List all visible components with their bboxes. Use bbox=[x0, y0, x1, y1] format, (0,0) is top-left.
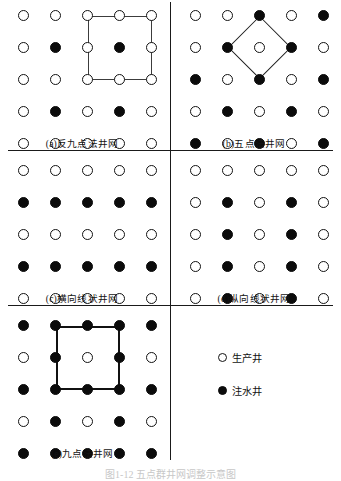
vertical-divider-top bbox=[170, 2, 171, 150]
injector-well-marker bbox=[114, 384, 125, 395]
injector-well-marker bbox=[82, 384, 93, 395]
producer-well-marker bbox=[50, 74, 61, 85]
producer-well-marker bbox=[82, 10, 93, 21]
injector-well-marker bbox=[146, 384, 157, 395]
panel-caption-c: (c)横向线状井网 bbox=[18, 291, 146, 305]
panel-caption-d: (d)纵向线状井网 bbox=[190, 291, 318, 305]
panel-caption-a: (a)反九点法井网 bbox=[18, 136, 146, 150]
producer-well-marker bbox=[146, 229, 157, 240]
producer-well-marker bbox=[318, 197, 329, 208]
panel-caption-b: (b)五点法井网 bbox=[190, 136, 318, 150]
producer-well-marker bbox=[318, 293, 329, 304]
producer-well-marker bbox=[146, 42, 157, 53]
injector-well-marker bbox=[286, 42, 297, 53]
producer-well-marker bbox=[146, 293, 157, 304]
injector-well-icon bbox=[218, 386, 227, 395]
injector-well-marker bbox=[254, 74, 265, 85]
producer-well-marker bbox=[222, 10, 233, 21]
producer-well-marker bbox=[318, 229, 329, 240]
producer-well-marker bbox=[82, 106, 93, 117]
injector-well-marker bbox=[222, 261, 233, 272]
producer-well-marker bbox=[318, 261, 329, 272]
injector-well-marker bbox=[146, 448, 157, 459]
injector-well-marker bbox=[50, 384, 61, 395]
producer-well-marker bbox=[286, 10, 297, 21]
injector-well-marker bbox=[286, 106, 297, 117]
injector-well-marker bbox=[222, 42, 233, 53]
legend-label-injector: 注水井 bbox=[232, 383, 262, 398]
legend-label-producer: 生产井 bbox=[232, 350, 262, 365]
injector-well-marker bbox=[190, 74, 201, 85]
producer-well-marker bbox=[18, 106, 29, 117]
producer-well-marker bbox=[18, 42, 29, 53]
producer-well-marker bbox=[190, 229, 201, 240]
producer-well-marker bbox=[114, 229, 125, 240]
producer-well-marker bbox=[190, 106, 201, 117]
producer-well-marker bbox=[18, 10, 29, 21]
panel-vertical-line-drive bbox=[190, 165, 329, 304]
injector-well-marker bbox=[286, 197, 297, 208]
producer-well-marker bbox=[50, 229, 61, 240]
producer-well-marker bbox=[82, 352, 93, 363]
producer-well-marker bbox=[286, 74, 297, 85]
injector-well-marker bbox=[222, 229, 233, 240]
injector-well-marker bbox=[50, 261, 61, 272]
injector-well-marker bbox=[114, 261, 125, 272]
injector-well-marker bbox=[222, 197, 233, 208]
injector-well-marker bbox=[318, 10, 329, 21]
producer-well-marker bbox=[190, 10, 201, 21]
producer-well-marker bbox=[18, 416, 29, 427]
producer-well-marker bbox=[254, 106, 265, 117]
injector-well-marker bbox=[18, 261, 29, 272]
producer-well-icon bbox=[218, 353, 227, 362]
producer-well-marker bbox=[18, 165, 29, 176]
producer-well-marker bbox=[82, 165, 93, 176]
injector-well-marker bbox=[50, 197, 61, 208]
injector-well-marker bbox=[114, 42, 125, 53]
injector-well-marker bbox=[146, 261, 157, 272]
injector-well-marker bbox=[222, 106, 233, 117]
producer-well-marker bbox=[190, 42, 201, 53]
injector-well-marker bbox=[18, 320, 29, 331]
legend: 生产井 注水井 bbox=[218, 350, 328, 416]
producer-well-marker bbox=[190, 197, 201, 208]
producer-well-marker bbox=[18, 352, 29, 363]
injector-well-marker bbox=[50, 352, 61, 363]
panel-caption-e: (e)九点法井网 bbox=[18, 446, 146, 460]
producer-well-marker bbox=[114, 74, 125, 85]
panel-five-spot bbox=[190, 10, 329, 149]
producer-well-marker bbox=[114, 10, 125, 21]
producer-well-marker bbox=[146, 352, 157, 363]
producer-well-marker bbox=[114, 165, 125, 176]
producer-well-marker bbox=[190, 165, 201, 176]
injector-well-marker bbox=[254, 10, 265, 21]
producer-well-marker bbox=[222, 165, 233, 176]
vertical-divider-middle bbox=[170, 150, 171, 305]
producer-well-marker bbox=[146, 10, 157, 21]
producer-well-marker bbox=[82, 229, 93, 240]
vertical-divider-bottom bbox=[170, 305, 171, 460]
producer-well-marker bbox=[82, 416, 93, 427]
injector-well-marker bbox=[114, 352, 125, 363]
injector-well-marker bbox=[18, 197, 29, 208]
producer-well-marker bbox=[82, 74, 93, 85]
injector-well-marker bbox=[50, 42, 61, 53]
producer-well-marker bbox=[146, 74, 157, 85]
injector-well-marker bbox=[50, 320, 61, 331]
producer-well-marker bbox=[318, 42, 329, 53]
injector-well-marker bbox=[318, 74, 329, 85]
injector-well-marker bbox=[286, 261, 297, 272]
producer-well-marker bbox=[318, 165, 329, 176]
producer-well-marker bbox=[254, 42, 265, 53]
panel-horizontal-line-drive bbox=[18, 165, 157, 304]
producer-well-marker bbox=[190, 261, 201, 272]
panel-inverted-nine-spot bbox=[18, 10, 157, 149]
producer-well-marker bbox=[18, 229, 29, 240]
producer-well-marker bbox=[318, 106, 329, 117]
injector-well-marker bbox=[50, 416, 61, 427]
producer-well-marker bbox=[146, 106, 157, 117]
injector-well-marker bbox=[82, 197, 93, 208]
injector-well-marker bbox=[82, 261, 93, 272]
producer-well-marker bbox=[254, 261, 265, 272]
